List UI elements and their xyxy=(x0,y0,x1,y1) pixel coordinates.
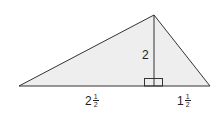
right-denominator: 2 xyxy=(186,101,190,108)
left-denominator: 2 xyxy=(94,101,98,108)
height-label: 2 xyxy=(142,49,149,61)
triangle xyxy=(19,15,210,86)
left-segment-label: 2 1 2 xyxy=(85,93,99,108)
right-segment-fraction: 1 2 xyxy=(185,93,191,108)
right-numerator: 1 xyxy=(185,93,191,101)
right-segment-label: 1 1 2 xyxy=(177,93,191,108)
left-segment-fraction: 1 2 xyxy=(93,93,99,108)
left-segment-whole: 2 xyxy=(85,95,92,107)
left-numerator: 1 xyxy=(93,93,99,101)
right-segment-whole: 1 xyxy=(177,95,184,107)
